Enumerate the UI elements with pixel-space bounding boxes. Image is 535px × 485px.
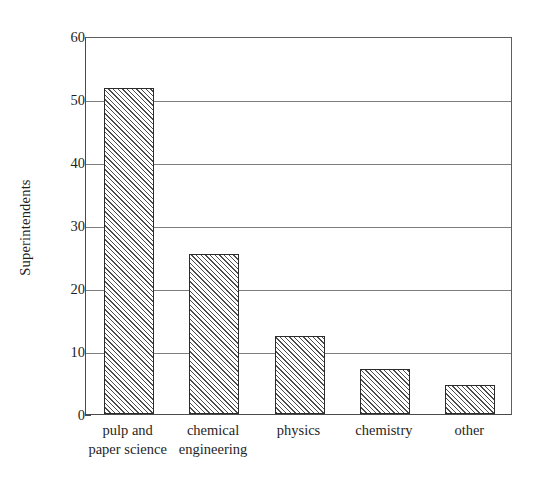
bar (189, 254, 239, 414)
y-tick-label: 0 (51, 408, 85, 423)
y-tick-label: 20 (51, 282, 85, 297)
x-tick-label: physics (256, 421, 341, 440)
bar (275, 336, 325, 414)
bar (360, 369, 410, 414)
plot-area (85, 37, 512, 415)
y-tick-label: 60 (51, 30, 85, 45)
x-axis-labels: pulp and paper sciencechemical engineeri… (85, 421, 512, 481)
x-tick-label: other (427, 421, 512, 440)
x-tick-label: chemistry (341, 421, 426, 440)
bar-chart-figure: Superintendents 0102030405060 pulp and p… (0, 0, 535, 485)
y-axis-ticks: 0102030405060 (40, 37, 85, 415)
x-tick-label: chemical engineering (170, 421, 255, 459)
bar (104, 88, 154, 414)
y-tick-label: 30 (51, 219, 85, 234)
bar (445, 385, 495, 414)
y-tick-label: 10 (51, 345, 85, 360)
y-axis-title: Superintendents (17, 179, 34, 275)
y-tick-label: 50 (51, 93, 85, 108)
y-tick-label: 40 (51, 156, 85, 171)
x-tick-label: pulp and paper science (85, 421, 170, 459)
y-tick-mark (85, 415, 91, 416)
